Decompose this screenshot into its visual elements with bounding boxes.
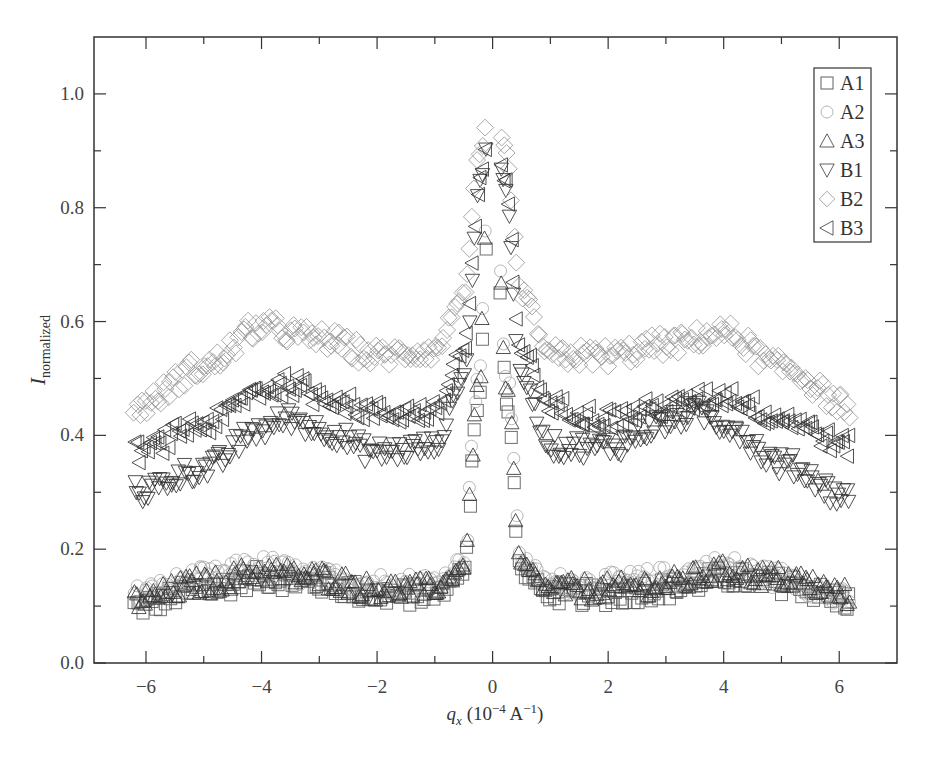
- x-axis-title: qx (10−4 A−1): [447, 701, 544, 728]
- legend-label: A1: [840, 72, 864, 94]
- series-a2: [128, 225, 855, 611]
- plot-data-points: [125, 119, 858, 619]
- y-tick-label: 0.0: [60, 652, 84, 673]
- scatter-chart: −6−4−202460.00.20.40.60.81.0 qx (10−4 A−…: [0, 0, 931, 757]
- y-tick-label: 0.4: [60, 424, 84, 445]
- legend-label: A3: [840, 130, 864, 152]
- legend-label: B2: [840, 188, 863, 210]
- legend: A1A2A3B1B2B3: [814, 68, 871, 242]
- axis-ticks: [94, 37, 897, 663]
- plot-frame: [94, 37, 897, 663]
- y-tick-label: 0.8: [60, 197, 84, 218]
- x-tick-label: −4: [251, 676, 272, 697]
- x-tick-label: 0: [488, 676, 498, 697]
- y-axis-title: Inormalized: [26, 315, 53, 386]
- series-b2: [125, 119, 858, 426]
- x-tick-label: −6: [136, 676, 156, 697]
- series-b3: [128, 142, 855, 470]
- x-tick-label: 6: [834, 676, 844, 697]
- y-tick-label: 0.6: [60, 311, 84, 332]
- x-tick-label: 4: [719, 676, 729, 697]
- legend-label: A2: [840, 101, 864, 123]
- x-tick-label: 2: [603, 676, 613, 697]
- legend-label: B1: [840, 159, 863, 181]
- y-tick-label: 1.0: [60, 83, 84, 104]
- x-tick-label: −2: [367, 676, 387, 697]
- y-tick-label: 0.2: [60, 538, 84, 559]
- legend-label: B3: [840, 217, 863, 239]
- legend-box: [814, 68, 871, 242]
